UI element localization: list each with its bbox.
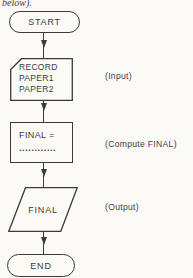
output-label: FINAL	[8, 187, 78, 232]
caption-text-fragment: below).	[2, 0, 32, 8]
start-label: START	[28, 17, 61, 27]
arrowhead-down-icon	[41, 40, 47, 48]
arrowhead-down-icon	[41, 103, 47, 111]
end-terminal-node: END	[7, 254, 75, 277]
input-annotation: (Input)	[105, 71, 132, 81]
flow-connector-input-to-compute	[43, 101, 44, 122]
end-label: END	[30, 261, 51, 271]
input-card-text: RECORD PAPER1 PAPER2	[19, 62, 58, 95]
input-card-node: RECORD PAPER1 PAPER2	[10, 58, 73, 101]
compute-annotation: (Compute FINAL)	[105, 139, 177, 149]
output-annotation: (Output)	[105, 202, 139, 212]
output-parallelogram-node: FINAL	[8, 187, 78, 232]
flowchart-canvas: below). START RECORD PAPER1 PAPER2 (Inpu…	[0, 0, 193, 278]
flow-connector-output-to-end	[43, 232, 44, 254]
compute-process-node: FINAL = ............	[10, 122, 73, 163]
compute-expression: FINAL =	[19, 130, 55, 140]
flow-connector-start-to-input	[43, 33, 44, 58]
input-line-3: PAPER2	[19, 84, 58, 95]
input-line-1: RECORD	[19, 62, 58, 73]
arrowhead-down-icon	[41, 169, 47, 177]
arrowhead-down-icon	[41, 237, 47, 245]
compute-dotted-line: ............	[19, 143, 56, 153]
flow-connector-compute-to-output	[43, 163, 44, 187]
input-line-2: PAPER1	[19, 73, 58, 84]
start-terminal-node: START	[9, 11, 80, 33]
